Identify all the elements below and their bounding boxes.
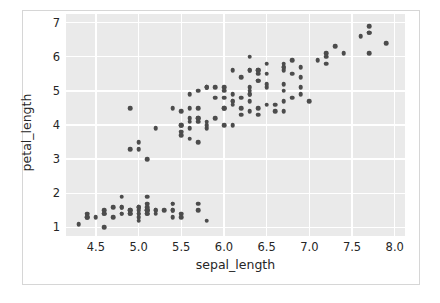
data-point: [136, 205, 141, 210]
data-point: [256, 71, 261, 76]
data-point: [281, 82, 286, 87]
data-point: [222, 123, 227, 128]
data-point: [247, 54, 252, 59]
data-point: [230, 123, 235, 128]
data-point: [196, 201, 201, 206]
data-point: [367, 24, 372, 29]
data-point: [324, 54, 329, 59]
x-tick-label-5.0: 5.0: [129, 240, 147, 254]
data-point: [145, 157, 150, 162]
data-point: [128, 212, 133, 217]
data-point: [188, 136, 193, 141]
data-point: [247, 99, 252, 104]
data-point: [111, 205, 116, 210]
data-point: [247, 109, 252, 114]
data-point: [256, 78, 261, 83]
data-point: [213, 116, 218, 121]
data-point: [222, 95, 227, 100]
x-tick-label-8.0: 8.0: [386, 240, 404, 254]
y-tick-label-3: 3: [53, 152, 60, 166]
data-point: [188, 92, 193, 97]
data-point: [136, 212, 141, 217]
data-point: [230, 102, 235, 107]
data-point: [213, 85, 218, 90]
data-point: [247, 89, 252, 94]
y-tick-label-4: 4: [53, 118, 60, 132]
data-point: [188, 116, 193, 121]
data-point: [333, 44, 338, 49]
data-point: [264, 82, 269, 87]
data-point: [188, 126, 193, 131]
plot-area: [66, 14, 405, 236]
data-point: [179, 123, 184, 128]
gridline-horizontal-5: [66, 56, 405, 57]
data-point: [179, 215, 184, 220]
data-point: [179, 133, 184, 138]
data-point: [290, 71, 295, 76]
data-point: [102, 225, 107, 230]
data-point: [290, 58, 295, 63]
gridline-horizontal-2: [66, 158, 405, 159]
data-point: [299, 85, 304, 90]
data-point: [384, 41, 389, 46]
data-point: [367, 51, 372, 56]
data-point: [213, 95, 218, 100]
data-point: [94, 215, 99, 220]
gridline-horizontal-3: [66, 124, 405, 125]
y-tick-label-2: 2: [53, 186, 60, 200]
data-point: [341, 51, 346, 56]
x-tick-label-5.5: 5.5: [172, 240, 190, 254]
data-point: [281, 65, 286, 70]
data-point: [239, 106, 244, 111]
data-point: [196, 106, 201, 111]
gridline-horizontal-4: [66, 90, 405, 91]
data-point: [111, 215, 116, 220]
y-tick-label-1: 1: [53, 220, 60, 234]
data-point: [281, 99, 286, 104]
y-tick-label-7: 7: [53, 16, 60, 30]
data-point: [170, 208, 175, 213]
data-point: [205, 123, 210, 128]
data-point: [179, 109, 184, 114]
data-point: [119, 194, 124, 199]
data-point: [170, 215, 175, 220]
data-point: [119, 212, 124, 217]
data-point: [153, 126, 158, 131]
data-point: [153, 208, 158, 213]
x-tick-label-4.5: 4.5: [87, 240, 105, 254]
data-point: [324, 61, 329, 66]
data-point: [256, 106, 261, 111]
data-point: [264, 102, 269, 107]
data-point: [145, 194, 150, 199]
data-point: [222, 106, 227, 111]
data-point: [290, 95, 295, 100]
data-point: [145, 205, 150, 210]
x-axis-label: sepal_length: [66, 257, 405, 272]
data-point: [128, 147, 133, 152]
data-point: [316, 58, 321, 63]
data-point: [239, 75, 244, 80]
data-point: [205, 85, 210, 90]
data-point: [307, 99, 312, 104]
x-tick-label-6.0: 6.0: [215, 240, 233, 254]
data-point: [230, 68, 235, 73]
data-point: [170, 106, 175, 111]
data-point: [273, 109, 278, 114]
data-point: [85, 215, 90, 220]
data-point: [136, 147, 141, 152]
data-point: [162, 208, 167, 213]
data-point: [136, 140, 141, 145]
data-point: [256, 112, 261, 117]
data-point: [264, 71, 269, 76]
data-point: [239, 112, 244, 117]
data-point: [281, 109, 286, 114]
data-point: [196, 208, 201, 213]
data-point: [239, 95, 244, 100]
data-point: [188, 106, 193, 111]
gridline-horizontal-6: [66, 22, 405, 23]
gridline-horizontal-1: [66, 193, 405, 194]
data-point: [119, 205, 124, 210]
data-point: [205, 218, 210, 223]
data-point: [77, 222, 82, 227]
data-point: [299, 92, 304, 97]
